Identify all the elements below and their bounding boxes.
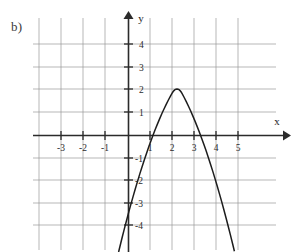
x-tick-label: -3	[57, 143, 65, 153]
graph-figure: b)	[0, 0, 295, 252]
part-label: b)	[11, 20, 22, 33]
y-axis-label: y	[138, 12, 144, 24]
x-tick-label: 2	[170, 143, 175, 153]
x-tick-label: 4	[214, 143, 219, 153]
x-tick-label: 5	[236, 143, 241, 153]
y-tick-label: 4	[139, 40, 144, 50]
y-tick-label: -4	[135, 221, 143, 231]
y-tick-label: 2	[139, 85, 144, 95]
x-tick-label: -1	[101, 143, 109, 153]
x-axis-label: x	[274, 115, 280, 127]
x-tick-label: 3	[192, 143, 197, 153]
x-axis	[33, 131, 291, 141]
y-tick-label: 1	[139, 108, 144, 118]
y-tick-label: -1	[135, 154, 143, 164]
x-tick-label: -2	[79, 143, 87, 153]
vertical-gridlines	[39, 18, 238, 250]
y-tick-label: 3	[139, 63, 144, 73]
y-tick-label: -3	[135, 199, 143, 209]
coordinate-plane-svg: -3 -2 -1 1 2 3 4 5 4 3 2 1 -1 -2 -3 -4 x…	[0, 0, 295, 252]
horizontal-gridlines	[33, 44, 276, 225]
